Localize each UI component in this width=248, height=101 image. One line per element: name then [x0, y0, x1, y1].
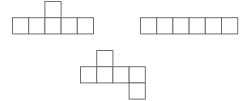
net-square	[97, 51, 113, 67]
net-square	[45, 2, 61, 18]
net-square	[189, 18, 205, 34]
net-square	[61, 18, 77, 34]
net-square	[81, 67, 97, 83]
net-a	[13, 2, 94, 34]
net-c	[81, 51, 146, 100]
net-b	[141, 18, 238, 34]
net-square	[129, 83, 145, 99]
net-square	[13, 18, 29, 34]
net-square	[205, 18, 221, 34]
net-square	[113, 67, 129, 83]
net-square	[45, 18, 61, 34]
cube-nets-diagram	[0, 0, 248, 101]
net-square	[141, 18, 157, 34]
net-square	[157, 18, 173, 34]
net-square	[173, 18, 189, 34]
net-square	[29, 18, 45, 34]
net-square	[97, 67, 113, 83]
net-square	[77, 18, 93, 34]
net-square	[222, 18, 238, 34]
net-square	[129, 67, 145, 83]
